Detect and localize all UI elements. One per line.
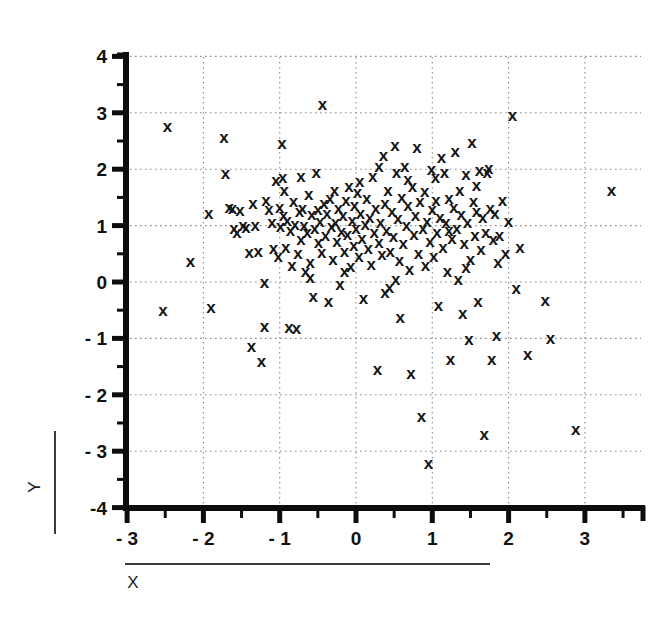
data-point-marker: x bbox=[508, 106, 518, 125]
data-point-marker: x bbox=[340, 262, 350, 281]
data-point-marker: x bbox=[206, 298, 216, 317]
data-point-marker: x bbox=[504, 212, 514, 231]
data-point-marker: x bbox=[461, 165, 471, 184]
data-point-marker: x bbox=[260, 273, 270, 292]
y-tick-label-neg3: - 3 bbox=[85, 441, 107, 462]
data-point-marker: x bbox=[450, 142, 460, 161]
data-point-marker: x bbox=[281, 238, 291, 257]
data-point-marker: x bbox=[330, 181, 340, 200]
data-point-marker: x bbox=[324, 292, 334, 311]
data-point-marker: x bbox=[373, 360, 383, 379]
y-tick-label-3: 3 bbox=[96, 103, 107, 124]
data-point-marker: x bbox=[467, 133, 477, 152]
data-point-marker: x bbox=[444, 221, 454, 240]
y-tick-labels-group: 43210- 1- 2- 3-4 bbox=[85, 46, 108, 518]
data-point-marker: x bbox=[359, 289, 369, 308]
data-point-marker: x bbox=[479, 425, 489, 444]
y-tick-label-neg4: -4 bbox=[90, 498, 107, 519]
data-point-marker: x bbox=[391, 270, 401, 289]
data-point-marker: x bbox=[515, 238, 525, 257]
data-point-marker: x bbox=[221, 164, 231, 183]
data-point-marker: x bbox=[186, 252, 196, 271]
data-point-marker: x bbox=[473, 292, 483, 311]
data-point-marker: x bbox=[279, 206, 289, 225]
data-point-marker: x bbox=[380, 283, 390, 302]
y-tick-label-0: 0 bbox=[96, 272, 107, 293]
data-point-marker: x bbox=[412, 138, 422, 157]
y-tick-label-1: 1 bbox=[96, 216, 107, 237]
data-point-marker: x bbox=[355, 172, 365, 191]
data-point-marker: x bbox=[305, 268, 315, 287]
data-point-marker: x bbox=[498, 191, 508, 210]
x-tick-label-neg3: - 3 bbox=[116, 528, 138, 549]
data-point-marker: x bbox=[254, 242, 264, 261]
x-tick-label-neg2: - 2 bbox=[192, 528, 214, 549]
data-point-marker: x bbox=[277, 134, 287, 153]
data-point-marker: x bbox=[367, 255, 377, 274]
data-point-marker: x bbox=[546, 329, 556, 348]
plot-canvas: 43210- 1- 2- 3-4 - 3- 2- 10123 xxxxxxxxx… bbox=[0, 0, 664, 619]
data-point-marker: x bbox=[431, 191, 441, 210]
data-point-marker: x bbox=[390, 136, 400, 155]
major-ticks-group bbox=[112, 54, 643, 523]
data-point-marker: x bbox=[395, 251, 405, 270]
data-point-marker: x bbox=[571, 420, 581, 439]
data-point-marker: x bbox=[472, 176, 482, 195]
data-point-marker: x bbox=[434, 296, 444, 315]
data-point-marker: x bbox=[492, 326, 502, 345]
y-axis-title: Y bbox=[25, 481, 44, 492]
data-point-marker: x bbox=[487, 350, 497, 369]
data-point-marker: x bbox=[406, 364, 416, 383]
data-point-marker: x bbox=[443, 262, 453, 281]
data-point-marker: x bbox=[204, 204, 214, 223]
data-point-marker: x bbox=[396, 308, 406, 327]
data-point-marker: x bbox=[440, 163, 450, 182]
data-point-marker: x bbox=[248, 194, 258, 213]
x-tick-labels-group: - 3- 2- 10123 bbox=[116, 528, 590, 549]
data-point-marker: x bbox=[464, 330, 474, 349]
data-point-marker: x bbox=[383, 181, 393, 200]
data-point-marker: x bbox=[318, 95, 328, 114]
data-point-marker: x bbox=[389, 227, 399, 246]
data-point-marker: x bbox=[403, 170, 413, 189]
data-point-marker: x bbox=[328, 250, 338, 269]
x-tick-label-0: 0 bbox=[351, 528, 362, 549]
x-tick-label-2: 2 bbox=[503, 528, 514, 549]
y-tick-label-neg1: - 1 bbox=[85, 328, 108, 349]
data-point-marker: x bbox=[317, 243, 327, 262]
data-point-marker: x bbox=[523, 345, 533, 364]
data-point-marker: x bbox=[251, 216, 261, 235]
data-point-marker: x bbox=[446, 350, 456, 369]
data-point-marker: x bbox=[247, 337, 257, 356]
data-point-marker: x bbox=[417, 407, 427, 426]
data-point-marker: x bbox=[399, 234, 409, 253]
data-point-marker: x bbox=[260, 317, 270, 336]
x-axis-title: X bbox=[127, 573, 138, 592]
data-point-marker: x bbox=[374, 157, 384, 176]
data-point-marker: x bbox=[420, 182, 430, 201]
data-point-marker: x bbox=[476, 240, 486, 259]
data-point-marker: x bbox=[501, 244, 511, 263]
data-point-marker: x bbox=[458, 304, 468, 323]
data-point-marker: x bbox=[158, 301, 168, 320]
x-tick-label-1: 1 bbox=[427, 528, 438, 549]
data-point-marker: x bbox=[607, 181, 617, 200]
y-tick-label-neg2: - 2 bbox=[85, 385, 107, 406]
scatter-plot-figure: 43210- 1- 2- 3-4 - 3- 2- 10123 xxxxxxxxx… bbox=[0, 0, 664, 619]
y-tick-label-2: 2 bbox=[96, 159, 107, 180]
data-point-marker: x bbox=[296, 167, 306, 186]
data-points-group: xxxxxxxxxxxxxxxxxxxxxxxxxxxxxxxxxxxxxxxx… bbox=[158, 95, 617, 473]
x-tick-label-neg1: - 1 bbox=[269, 528, 292, 549]
y-tick-label-4: 4 bbox=[96, 46, 107, 67]
data-point-marker: x bbox=[163, 117, 173, 136]
data-point-marker: x bbox=[484, 159, 494, 178]
data-point-marker: x bbox=[461, 258, 471, 277]
x-tick-label-3: 3 bbox=[580, 528, 591, 549]
data-point-marker: x bbox=[257, 352, 267, 371]
data-point-marker: x bbox=[309, 287, 319, 306]
data-point-marker: x bbox=[424, 454, 434, 473]
data-point-marker: x bbox=[219, 128, 229, 147]
data-point-marker: x bbox=[312, 163, 322, 182]
data-point-marker: x bbox=[292, 319, 302, 338]
data-point-marker: x bbox=[540, 291, 550, 310]
